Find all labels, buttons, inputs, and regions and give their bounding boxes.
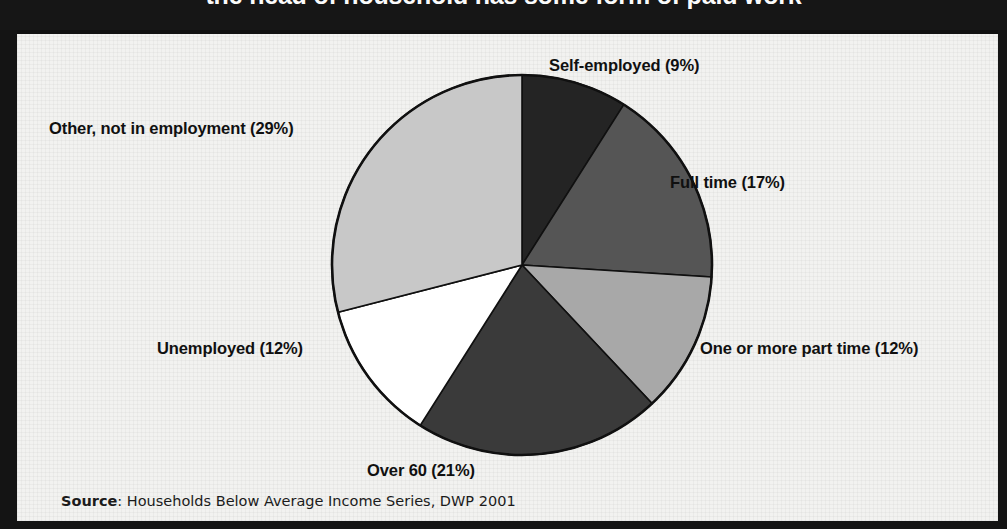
slice-label-part-time: One or more part time (12%) bbox=[700, 339, 918, 358]
slice-label-full-time: Full time (17%) bbox=[670, 173, 785, 192]
slice-label-other: Other, not in employment (29%) bbox=[49, 119, 294, 138]
source-note: Source: Households Below Average Income … bbox=[61, 493, 516, 509]
figure-pie-chart: the head of household has some form of p… bbox=[0, 0, 1007, 529]
frame-left-border bbox=[0, 30, 17, 529]
title-band: the head of household has some form of p… bbox=[0, 0, 1007, 30]
pie-chart: Self-employed (9%)Full time (17%)One or … bbox=[17, 34, 998, 521]
chart-title: the head of household has some form of p… bbox=[0, 0, 1007, 10]
slice-label-over-60: Over 60 (21%) bbox=[367, 461, 475, 480]
source-text: : Households Below Average Income Series… bbox=[117, 493, 515, 509]
plot-area: Self-employed (9%)Full time (17%)One or … bbox=[17, 34, 998, 521]
frame-right-border bbox=[998, 30, 1007, 529]
source-label: Source bbox=[61, 493, 117, 509]
pie-svg: Self-employed (9%)Full time (17%)One or … bbox=[17, 34, 998, 521]
frame-bottom-border bbox=[0, 521, 1007, 529]
pie-slice-group: Self-employed (9%)Full time (17%)One or … bbox=[332, 75, 712, 455]
slice-label-self-employed: Self-employed (9%) bbox=[549, 56, 699, 75]
slice-label-unemployed: Unemployed (12%) bbox=[157, 339, 303, 358]
